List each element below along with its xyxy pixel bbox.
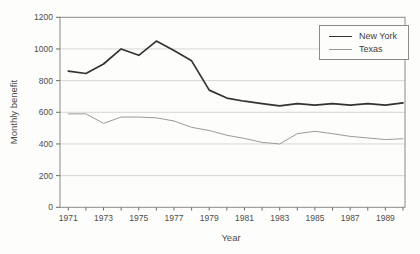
y-axis-tick-label: 1000 <box>34 44 53 54</box>
y-axis-tick-label: 1200 <box>34 12 53 22</box>
legend-item-new-york: New York <box>329 32 408 41</box>
benefit-line-chart-figure: 0200400600800100012001971197319751977197… <box>0 0 420 254</box>
x-axis-tick-label: 1989 <box>376 213 395 223</box>
legend-box: New YorkTexas <box>319 25 409 60</box>
x-axis-tick-label: 1971 <box>59 213 78 223</box>
y-axis-tick-label: 400 <box>39 139 53 149</box>
x-axis-tick-label: 1983 <box>270 213 289 223</box>
y-axis-title: Monthly benefit <box>8 80 19 144</box>
x-axis-tick-label: 1975 <box>129 213 148 223</box>
legend-line-swatch-new-york <box>329 36 352 37</box>
x-axis-tick-label: 1987 <box>341 213 360 223</box>
series-line-texas <box>68 114 403 144</box>
legend-label-texas: Texas <box>359 45 383 54</box>
x-axis-title: Year <box>221 232 240 243</box>
y-axis-tick-label: 0 <box>48 202 53 212</box>
legend-item-texas: Texas <box>329 45 408 54</box>
x-axis-tick-label: 1985 <box>305 213 324 223</box>
legend-line-swatch-texas <box>329 49 352 50</box>
x-axis-tick-label: 1977 <box>165 213 184 223</box>
x-axis-tick-label: 1981 <box>235 213 254 223</box>
legend-label-new-york: New York <box>359 32 397 41</box>
x-axis-tick-label: 1979 <box>200 213 219 223</box>
y-axis-tick-label: 600 <box>39 107 53 117</box>
x-axis-tick-label: 1973 <box>94 213 113 223</box>
y-axis-tick-label: 200 <box>39 171 53 181</box>
y-axis-tick-label: 800 <box>39 76 53 86</box>
